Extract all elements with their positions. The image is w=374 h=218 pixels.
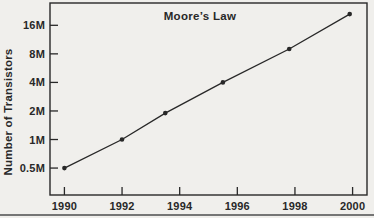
- chart-title: Moore’s Law: [50, 10, 350, 22]
- y-tick-label-3: 2M: [0, 104, 45, 118]
- y-tick-label-4: 1M: [0, 133, 45, 147]
- data-point: [120, 137, 125, 142]
- x-tick-label-4: 1998: [273, 200, 317, 213]
- transistor-trend-line: [64, 14, 349, 168]
- data-point: [287, 47, 292, 52]
- y-tick-label-2: 4M: [0, 75, 45, 89]
- x-tick-label-5: 2000: [331, 200, 374, 213]
- x-tick-label-1: 1992: [100, 200, 144, 213]
- data-point: [221, 80, 226, 85]
- data-point: [62, 166, 67, 171]
- x-tick-label-2: 1994: [158, 200, 202, 213]
- data-point: [163, 111, 168, 116]
- y-tick-label-0: 16M: [0, 18, 45, 32]
- y-tick-label-1: 8M: [0, 47, 45, 61]
- chart-plot-area: [0, 0, 374, 218]
- x-tick-label-0: 1990: [42, 200, 86, 213]
- x-tick-label-3: 1996: [215, 200, 259, 213]
- y-tick-label-5: 0.5M: [0, 161, 45, 175]
- moores-law-figure: Moore’s Law Number of Transistors 16M 8M…: [0, 0, 374, 218]
